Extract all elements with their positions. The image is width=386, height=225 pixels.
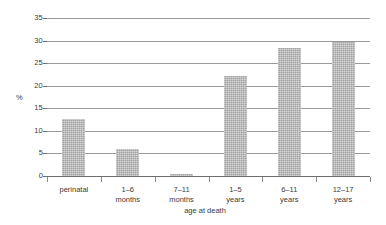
x-axis-tick-mark — [209, 177, 210, 182]
y-axis-tick-label: 35 — [21, 14, 43, 22]
x-axis-tick-mark — [101, 177, 102, 182]
x-axis-tick-label-line: perinatal — [43, 185, 105, 195]
x-axis-tick-label: 12–17years — [312, 185, 374, 204]
y-axis-tick-label: 20 — [21, 82, 43, 90]
gridline — [47, 153, 370, 154]
gridline — [47, 63, 370, 64]
bar — [224, 76, 247, 176]
bar — [62, 119, 85, 176]
bar — [278, 48, 301, 176]
y-axis-tick-label: 5 — [21, 149, 43, 157]
x-axis-tick-label-line: 1–5 — [204, 185, 266, 195]
bar — [116, 149, 139, 176]
x-axis-tick-label: 1–6months — [97, 185, 159, 204]
x-axis-tick-mark — [316, 177, 317, 182]
x-axis-tick-label: perinatal — [43, 185, 105, 195]
x-axis-tick-label: 6–11years — [258, 185, 320, 204]
gridline — [47, 108, 370, 109]
x-axis-tick-label-line: years — [312, 195, 374, 205]
x-axis-tick-label-line: months — [151, 195, 213, 205]
gridline — [47, 18, 370, 19]
x-axis-tick-label: 7–11months — [151, 185, 213, 204]
x-axis-tick-label-line: years — [204, 195, 266, 205]
bar — [332, 42, 355, 176]
x-axis-tick-mark — [262, 177, 263, 182]
bar-chart-figure: % 05101520253035 perinatal1–6months7–11m… — [0, 0, 386, 225]
x-axis-tick-label-line: 1–6 — [97, 185, 159, 195]
gridline — [47, 41, 370, 42]
gridline — [47, 131, 370, 132]
x-axis-tick-label-line: months — [97, 195, 159, 205]
y-axis-tick-label: 10 — [21, 127, 43, 135]
y-axis-tick-labels: 05101520253035 — [19, 18, 43, 176]
y-axis-tick-label: 15 — [21, 104, 43, 112]
x-axis-tick-mark — [155, 177, 156, 182]
x-axis-tick-mark — [370, 177, 371, 182]
x-axis-tick-label-line: years — [258, 195, 320, 205]
x-axis-tick-label: 1–5years — [204, 185, 266, 204]
x-axis-tick-label-line: 6–11 — [258, 185, 320, 195]
y-axis-tick-label: 0 — [21, 172, 43, 180]
x-axis-tick-mark — [47, 177, 48, 182]
x-axis-tick-label-line: 7–11 — [151, 185, 213, 195]
y-axis-tick-label: 30 — [21, 37, 43, 45]
x-axis-title: age at death — [0, 206, 386, 215]
plot-area — [47, 18, 370, 176]
gridline — [47, 86, 370, 87]
x-axis-tick-label-line: 12–17 — [312, 185, 374, 195]
y-axis-tick-label: 25 — [21, 59, 43, 67]
